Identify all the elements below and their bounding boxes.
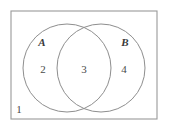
set-b-label: B — [120, 36, 128, 48]
region-b-only-count: 4 — [121, 63, 127, 75]
region-intersection-count: 3 — [81, 63, 87, 75]
set-a-label: A — [37, 36, 45, 48]
venn-diagram-figure: A B 2 3 4 1 — [0, 0, 169, 130]
region-a-only-count: 2 — [40, 63, 46, 75]
universal-set-label: 1 — [16, 103, 22, 115]
